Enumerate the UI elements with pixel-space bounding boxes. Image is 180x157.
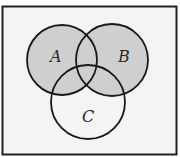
set-b-label: B — [117, 47, 130, 66]
venn-diagram: A B C — [0, 0, 180, 157]
venn-diagram-frame: A B C — [0, 0, 180, 157]
set-a-label: A — [48, 47, 62, 66]
set-c-label: C — [82, 107, 94, 126]
